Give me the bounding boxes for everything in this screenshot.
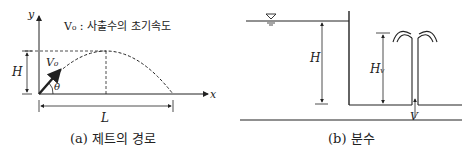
- caption-a: (a) 제트의 경로: [70, 128, 156, 147]
- caption-b: (b) 분수: [328, 128, 375, 147]
- height-label: H: [11, 65, 23, 79]
- figure-fountain: H Hᵥ V (b) 분수: [230, 0, 474, 158]
- figure-jet-trajectory: y x H L V₀ θ V₀ : 사출수의 초기속도 (a) 제트의 경로: [0, 0, 240, 158]
- velocity-label-b: V: [410, 110, 419, 123]
- angle-label: θ: [54, 81, 60, 92]
- legend-text: V₀ : 사출수의 초기속도: [63, 20, 171, 33]
- water-level-icon: [266, 14, 276, 19]
- length-label: L: [100, 111, 109, 125]
- x-axis-label: x: [210, 88, 217, 101]
- velocity-label: V₀: [46, 56, 59, 69]
- velocity-head-label: Hᵥ: [369, 62, 385, 76]
- head-label: H: [309, 51, 321, 65]
- y-axis-label: y: [27, 8, 35, 21]
